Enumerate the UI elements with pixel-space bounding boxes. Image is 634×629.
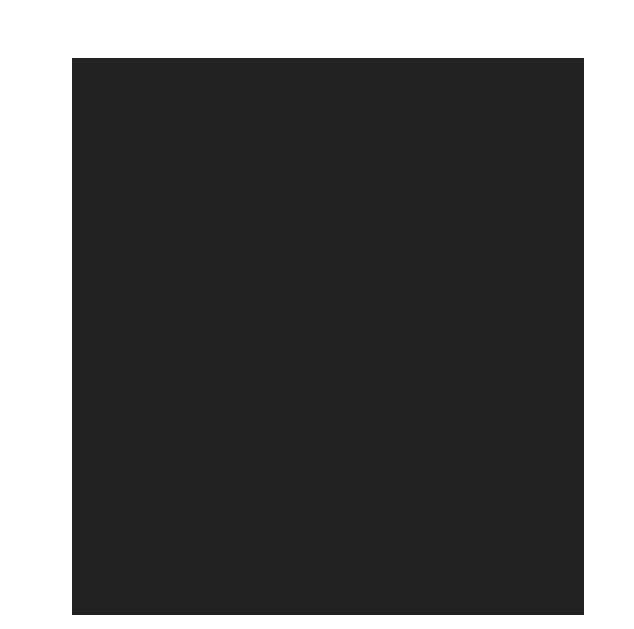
column-labels	[72, 33, 584, 51]
stitch-grid	[72, 58, 584, 615]
